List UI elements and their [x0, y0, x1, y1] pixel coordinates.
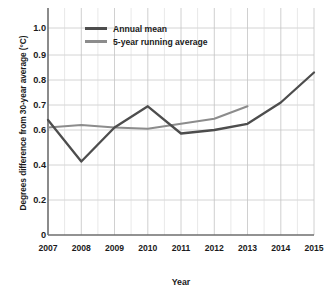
x-axis-title: Year: [48, 277, 314, 287]
x-axis-tick-labels: 2007 2008 2009 2010 2011 2012 2013 2014 …: [0, 0, 329, 298]
x-tick-label: 2015: [294, 244, 329, 253]
climate-anomaly-line-chart: Degrees difference from 30-year average …: [0, 0, 329, 298]
